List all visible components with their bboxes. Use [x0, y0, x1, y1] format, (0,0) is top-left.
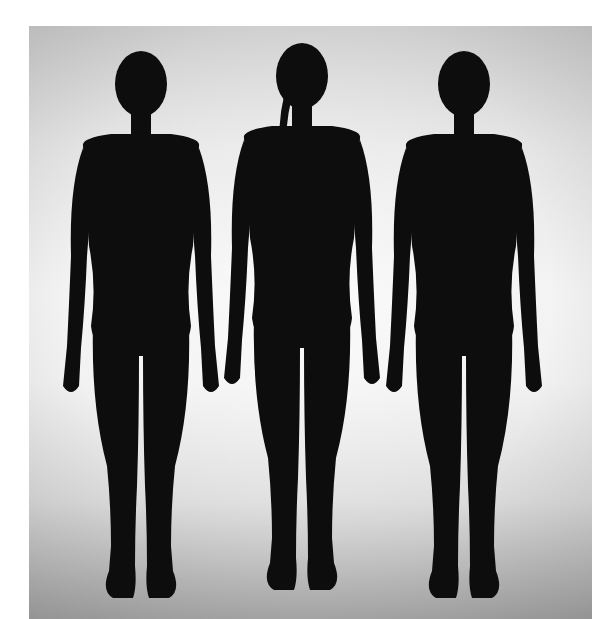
silhouettes	[29, 26, 592, 619]
photograph	[29, 26, 592, 619]
